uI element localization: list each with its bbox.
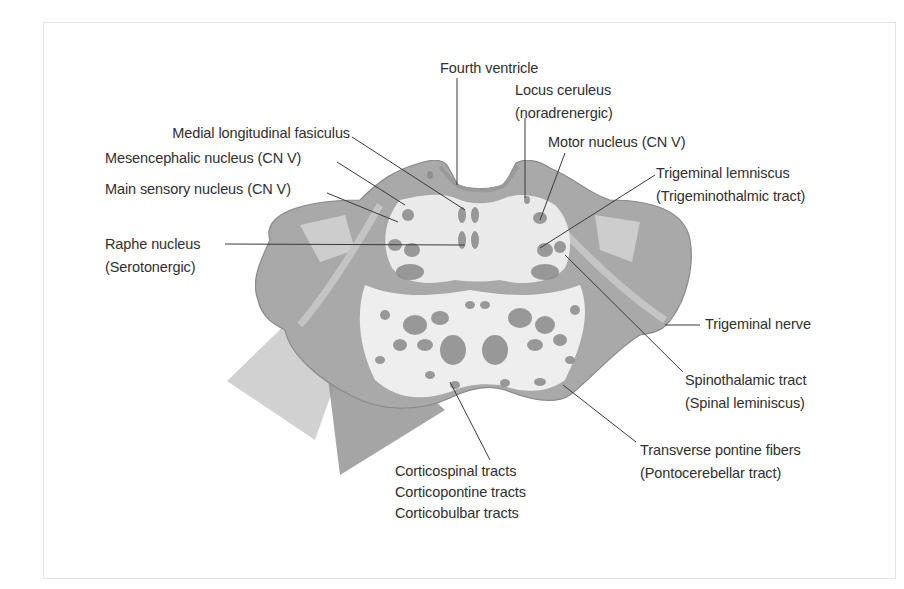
label-line: Corticospinal tracts — [395, 461, 526, 482]
label-line: Trigeminal lemniscus — [656, 162, 805, 185]
label-line: Main sensory nucleus (CN V) — [105, 178, 291, 201]
label-raphe-nucleus: Raphe nucleus (Serotonergic) — [105, 233, 200, 279]
label-transverse-pontine-fibers: Transverse pontine fibers (Pontocerebell… — [640, 439, 801, 485]
label-line: Spinothalamic tract — [685, 369, 806, 392]
label-line: Transverse pontine fibers — [640, 439, 801, 462]
label-mesencephalic-nucleus: Mesencephalic nucleus (CN V) — [105, 147, 301, 170]
label-corticospinal-group: Corticospinal tracts Corticopontine trac… — [395, 461, 526, 524]
label-line: Medial longitudinal fasiculus — [172, 122, 350, 145]
label-line: (Spinal leminiscus) — [685, 392, 806, 415]
label-line: Corticobulbar tracts — [395, 503, 526, 524]
leader-transverse-pontine — [563, 385, 636, 442]
label-line: Raphe nucleus — [105, 233, 200, 256]
label-locus-ceruleus: Locus ceruleus (noradrenergic) — [515, 79, 613, 125]
label-trigeminal-lemniscus: Trigeminal lemniscus (Trigeminothalmic t… — [656, 162, 805, 208]
label-main-sensory-nucleus: Main sensory nucleus (CN V) — [105, 178, 291, 201]
label-spinothalamic-tract: Spinothalamic tract (Spinal leminiscus) — [685, 369, 806, 415]
label-medial-longitudinal-fasciculus: Medial longitudinal fasiculus — [172, 122, 350, 145]
label-line: (Pontocerebellar tract) — [640, 462, 801, 485]
label-line: Locus ceruleus — [515, 79, 613, 102]
label-line: Trigeminal nerve — [705, 313, 811, 336]
label-motor-nucleus: Motor nucleus (CN V) — [548, 131, 685, 154]
leader-corticospinal — [450, 382, 490, 460]
label-line: (Serotonergic) — [105, 256, 200, 279]
label-line: Fourth ventricle — [440, 57, 538, 80]
label-line: (noradrenergic) — [515, 102, 613, 125]
label-line: Motor nucleus (CN V) — [548, 131, 685, 154]
label-line: (Trigeminothalmic tract) — [656, 185, 805, 208]
label-trigeminal-nerve: Trigeminal nerve — [705, 313, 811, 336]
label-line: Mesencephalic nucleus (CN V) — [105, 147, 301, 170]
label-fourth-ventricle: Fourth ventricle — [440, 57, 538, 80]
label-line: Corticopontine tracts — [395, 482, 526, 503]
